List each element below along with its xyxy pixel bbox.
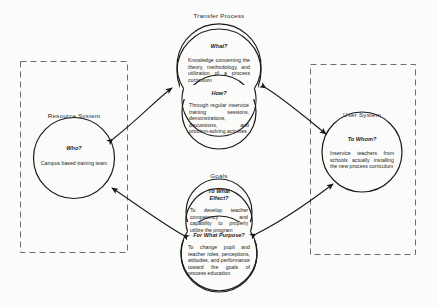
- resource-system-title: Resource System: [48, 112, 101, 119]
- arrow-goals-to-resource: [112, 188, 183, 235]
- resource-system-body: Campus based training team: [36, 160, 112, 167]
- goals-title: Goals: [210, 172, 227, 179]
- arrow-resource-to-transfer: [113, 88, 172, 139]
- goals-effect-body: To develop teacher competency and capabi…: [190, 207, 248, 233]
- arrow-goals-to-user: [256, 184, 333, 234]
- arrow-transfer-to-user: [266, 88, 326, 134]
- diagram-canvas: transfer process (upper-left) --> user s…: [0, 0, 437, 307]
- transfer-process-what-body: Knowledge concerning the theory, methodo…: [188, 57, 250, 83]
- goals-purpose-question: For What Purpose?: [193, 232, 245, 239]
- goals-purpose-body: To change pupil and teacher roles, perce…: [188, 244, 250, 277]
- transfer-process-what-question: What?: [210, 43, 227, 50]
- user-system-question: To Whom?: [348, 136, 377, 143]
- goals-effect-question-line2: Effect?: [191, 195, 247, 202]
- resource-system-circle: [34, 118, 115, 199]
- transfer-process-title: Transfer Process: [194, 12, 245, 19]
- transfer-process-how-question: How?: [211, 90, 226, 97]
- user-system-body: Inservice teachers from schools actually…: [330, 150, 394, 170]
- user-system-title: User System: [343, 111, 381, 118]
- goals-effect-question-line1: To What: [191, 188, 247, 195]
- transfer-process-how-body: Through regular inservice training sessi…: [189, 102, 249, 135]
- resource-system-question: Who?: [66, 145, 82, 152]
